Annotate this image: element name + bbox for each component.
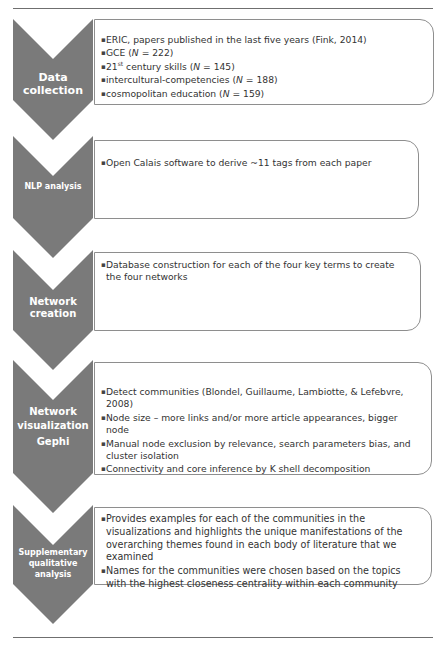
step-label-nlp-analysis: NLP analysis xyxy=(13,182,93,192)
step-items: ERIC, papers published in the last five … xyxy=(101,34,425,100)
list-item: GCE (N = 222) xyxy=(101,47,425,59)
step-items: Detect communities (Blondel, Guillaume, … xyxy=(101,386,423,476)
step-label-line: Gephi xyxy=(13,435,93,449)
step-box-network-creation: Database construction for each of the fo… xyxy=(94,252,421,331)
step-label-supplementary-qualitative-analysis: Supplementary qualitative analysis xyxy=(13,547,93,580)
step-label-line: creation xyxy=(13,308,93,320)
list-item: Manual node exclusion by relevance, sear… xyxy=(101,438,423,463)
chevron-nlp-analysis xyxy=(13,136,93,258)
list-item: Detect communities (Blondel, Guillaume, … xyxy=(101,386,423,411)
step-label-line: Network xyxy=(13,296,93,308)
step-label-line: Data collection xyxy=(13,71,93,97)
step-label-line: Network xyxy=(13,405,93,419)
list-item: ERIC, papers published in the last five … xyxy=(101,34,425,46)
step-label-data-collection: Data collection xyxy=(13,71,93,97)
step-label-network-creation: Network creation xyxy=(13,296,93,320)
step-label-line: analysis xyxy=(13,569,93,580)
step-label-line: qualitative xyxy=(13,558,93,569)
list-item: Open Calais software to derive ~11 tags … xyxy=(101,157,410,169)
list-item: 21st century skills (N = 145) xyxy=(101,61,425,73)
list-item: Database construction for each of the fo… xyxy=(101,259,412,284)
list-item: Provides examples for each of the commun… xyxy=(101,513,423,564)
step-box-data-collection: ERIC, papers published in the last five … xyxy=(94,19,434,105)
step-items: Database construction for each of the fo… xyxy=(101,259,412,284)
list-item: cosmopolitan education (N = 159) xyxy=(101,88,425,100)
list-item: intercultural-competencies (N = 188) xyxy=(101,74,425,86)
bottom-rule xyxy=(13,637,433,638)
step-label-line: NLP analysis xyxy=(13,182,93,192)
list-item: Names for the communities were chosen ba… xyxy=(101,565,423,591)
step-items: Provides examples for each of the commun… xyxy=(101,513,423,591)
step-box-nlp-analysis: Open Calais software to derive ~11 tags … xyxy=(94,140,419,219)
list-item: Node size – more links and/or more artic… xyxy=(101,412,423,437)
step-label-line: visualization xyxy=(13,419,93,433)
step-box-supplementary-qualitative-analysis: Provides examples for each of the commun… xyxy=(94,507,432,585)
step-items: Open Calais software to derive ~11 tags … xyxy=(101,157,410,169)
step-box-network-visualization: Detect communities (Blondel, Guillaume, … xyxy=(94,362,432,475)
step-label-line: Supplementary xyxy=(13,547,93,558)
list-item: Connectivity and core inference by K she… xyxy=(101,463,423,475)
step-label-network-visualization: Network visualization Gephi xyxy=(13,405,93,449)
